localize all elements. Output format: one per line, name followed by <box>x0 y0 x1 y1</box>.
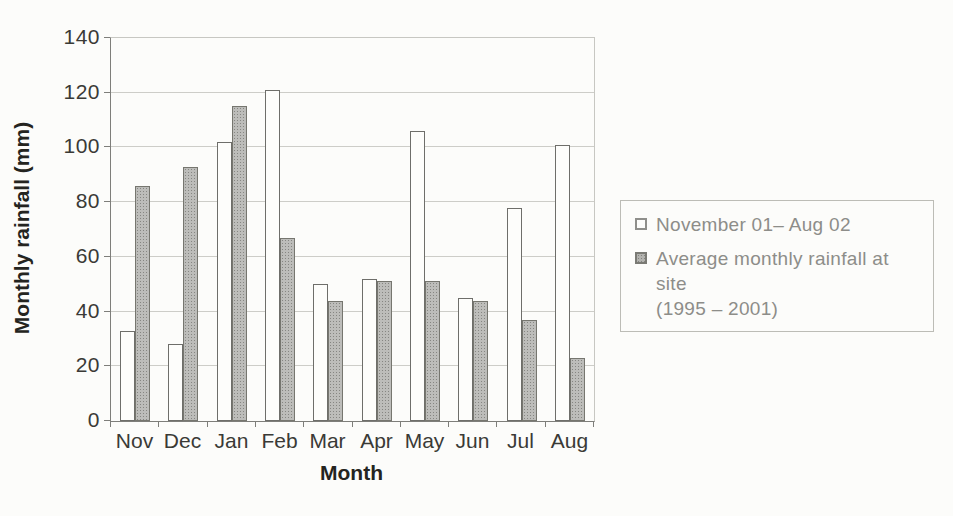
y-tick-label-80: 80 <box>54 191 100 211</box>
x-tick-label-jun: Jun <box>448 429 497 453</box>
y-tick-label-0: 0 <box>54 410 100 430</box>
gridline-100 <box>111 146 594 147</box>
x-tick-mark-6 <box>400 421 401 427</box>
y-tick-label-40: 40 <box>54 301 100 321</box>
x-tick-mark-9 <box>545 421 546 427</box>
legend-item-average-1995-2001: Average monthly rainfall at site(1995 – … <box>633 246 921 321</box>
x-tick-mark-10 <box>593 421 594 427</box>
y-tick-label-120: 120 <box>54 82 100 102</box>
y-tick-mark-140 <box>104 37 110 38</box>
x-tick-label-jul: Jul <box>496 429 545 453</box>
bar-average-1995-2001-mar <box>328 301 343 421</box>
legend-label-average-1995-2001: Average monthly rainfall at site(1995 – … <box>656 246 921 321</box>
bar-nov01-aug02-jul <box>507 208 522 421</box>
x-tick-mark-3 <box>255 421 256 427</box>
bar-nov01-aug02-dec <box>168 344 183 421</box>
bar-nov01-aug02-aug <box>555 145 570 421</box>
x-tick-mark-0 <box>110 421 111 427</box>
y-tick-label-20: 20 <box>54 355 100 375</box>
chart-canvas: Monthly rainfall (mm) 020406080100120140… <box>0 0 953 516</box>
bar-average-1995-2001-nov <box>135 186 150 421</box>
bar-nov01-aug02-may <box>410 131 425 421</box>
legend-label-nov01-aug02: November 01– Aug 02 <box>656 212 851 237</box>
bar-average-1995-2001-dec <box>183 167 198 421</box>
x-tick-label-apr: Apr <box>352 429 401 453</box>
x-tick-mark-8 <box>496 421 497 427</box>
legend-swatch-nov01-aug02-icon <box>635 218 647 230</box>
x-axis-title: Month <box>110 461 593 485</box>
x-tick-label-aug: Aug <box>545 429 594 453</box>
bar-average-1995-2001-apr <box>377 281 392 421</box>
x-tick-mark-4 <box>303 421 304 427</box>
y-tick-mark-60 <box>104 256 110 257</box>
y-tick-mark-40 <box>104 311 110 312</box>
bar-average-1995-2001-aug <box>570 358 585 421</box>
bar-nov01-aug02-mar <box>313 284 328 421</box>
legend-swatch-average-1995-2001-icon <box>635 252 647 264</box>
y-tick-mark-20 <box>104 365 110 366</box>
legend: November 01– Aug 02Average monthly rainf… <box>620 200 934 332</box>
y-tick-label-60: 60 <box>54 246 100 266</box>
bar-average-1995-2001-jul <box>522 320 537 421</box>
y-tick-mark-120 <box>104 92 110 93</box>
x-tick-label-jan: Jan <box>207 429 256 453</box>
gridline-120 <box>111 92 594 93</box>
y-tick-mark-100 <box>104 146 110 147</box>
x-tick-label-mar: Mar <box>303 429 352 453</box>
bar-nov01-aug02-jun <box>458 298 473 421</box>
bar-average-1995-2001-may <box>425 281 440 421</box>
bar-average-1995-2001-feb <box>280 238 295 421</box>
bar-nov01-aug02-jan <box>217 142 232 421</box>
y-tick-label-100: 100 <box>54 136 100 156</box>
x-tick-mark-1 <box>158 421 159 427</box>
y-tick-label-140: 140 <box>54 27 100 47</box>
bar-nov01-aug02-nov <box>120 331 135 421</box>
bar-average-1995-2001-jun <box>473 301 488 421</box>
x-tick-mark-5 <box>352 421 353 427</box>
x-tick-label-nov: Nov <box>110 429 159 453</box>
bar-average-1995-2001-jan <box>232 106 247 421</box>
plot-area <box>110 37 595 422</box>
bar-nov01-aug02-apr <box>362 279 377 421</box>
y-axis-title: Monthly rainfall (mm) <box>10 28 34 428</box>
x-tick-mark-2 <box>207 421 208 427</box>
x-tick-label-may: May <box>400 429 449 453</box>
bar-nov01-aug02-feb <box>265 90 280 421</box>
y-tick-mark-80 <box>104 201 110 202</box>
x-tick-mark-7 <box>448 421 449 427</box>
x-tick-label-feb: Feb <box>255 429 304 453</box>
legend-item-nov01-aug02: November 01– Aug 02 <box>633 212 921 237</box>
x-tick-label-dec: Dec <box>158 429 207 453</box>
